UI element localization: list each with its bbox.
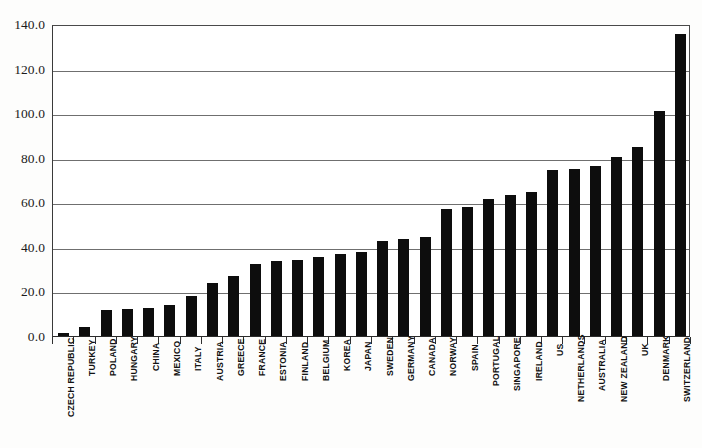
x-axis-category-label: SWITZERLAND (683, 336, 692, 401)
x-axis-category-label: ITALY (194, 347, 203, 372)
x-axis-category-label: GERMANY (407, 336, 416, 382)
bar (250, 264, 261, 336)
x-axis-category-label: CHINA (152, 343, 161, 371)
bar (590, 166, 601, 336)
x-axis-tick (201, 337, 202, 344)
y-axis-tick-label: 120.0 (14, 62, 45, 78)
bar (547, 170, 558, 336)
bar (569, 169, 580, 336)
bar (654, 111, 665, 336)
x-axis-category-label: IRELAND (535, 341, 544, 381)
bar (207, 283, 218, 336)
bar (462, 207, 473, 336)
bar (356, 252, 367, 336)
bar (101, 310, 112, 336)
y-axis-tick-label: 20.0 (21, 284, 45, 300)
bar-chart: 0.020.040.060.080.0100.0120.0140.0 CZECH… (0, 0, 702, 448)
x-axis-category-label: SPAIN (471, 344, 480, 371)
bar (271, 261, 282, 336)
x-axis-category-label: POLAND (109, 339, 118, 377)
x-axis-category-label: NETHERLANDS (577, 334, 586, 402)
bar (58, 333, 69, 336)
bar (164, 305, 175, 336)
y-axis-tick-label: 100.0 (14, 106, 45, 122)
x-axis-category-label: NORWAY (449, 337, 458, 376)
bar (526, 192, 537, 336)
bar (675, 34, 686, 336)
x-axis-category-label: SWEDEN (386, 337, 395, 376)
x-axis-category-label: JAPAN (364, 342, 373, 372)
x-axis-category-label: CANADA (428, 338, 437, 377)
x-axis-category-label: BELGIUM (322, 340, 331, 381)
y-axis-tick-label: 60.0 (21, 195, 45, 211)
x-axis-category-label: PORTUGAL (492, 336, 501, 386)
bar-series (53, 26, 689, 336)
x-axis-category-label: CZECH REPUBLIC (67, 337, 76, 416)
bar (186, 296, 197, 336)
bar (483, 199, 494, 336)
bar (122, 309, 133, 336)
bar (505, 195, 516, 337)
x-axis-category-label: NEW ZEALAND (620, 335, 629, 401)
bar (79, 327, 90, 336)
x-axis-category-labels: CZECH REPUBLICTURKEYPOLANDHUNGARYCHINAME… (52, 344, 690, 448)
bar (398, 239, 409, 336)
x-axis-category-label: US (556, 344, 565, 356)
x-axis-category-label: TURKEY (88, 339, 97, 376)
bar (377, 241, 388, 336)
y-axis-tick-label: 80.0 (21, 151, 45, 167)
plot-area (52, 25, 690, 337)
x-axis-category-label: FRANCE (258, 339, 267, 376)
x-axis-tick (52, 337, 53, 344)
x-axis-tick (477, 337, 478, 344)
bar (143, 308, 154, 336)
x-axis-category-label: ESTONIA (279, 342, 288, 382)
bar (632, 147, 643, 336)
x-axis-category-label: SINGAPORE (513, 338, 522, 392)
bar (441, 209, 452, 336)
y-axis-tick-label: 140.0 (14, 17, 45, 33)
x-axis-category-label: UK (641, 343, 650, 356)
x-axis-category-label: DENMARK (662, 336, 671, 382)
x-axis-category-label: MEXICO (173, 341, 182, 376)
x-axis-category-label: AUSTRALIA (598, 340, 607, 392)
x-axis-category-label: KOREA (343, 339, 352, 371)
x-axis-category-label: HUNGARY (130, 336, 139, 381)
bar (292, 260, 303, 336)
y-axis-tick-labels: 0.020.040.060.080.0100.0120.0140.0 (0, 0, 48, 448)
x-axis-category-label: FINLAND (301, 342, 310, 381)
bar (611, 157, 622, 336)
bar (335, 254, 346, 336)
bar (313, 257, 324, 336)
y-axis-tick-label: 0.0 (28, 329, 45, 345)
x-axis-category-label: AUSTRIA (216, 341, 225, 381)
bar (228, 276, 239, 336)
y-axis-tick-label: 40.0 (21, 240, 45, 256)
bar (420, 237, 431, 336)
x-axis-category-label: GREECE (237, 339, 246, 377)
